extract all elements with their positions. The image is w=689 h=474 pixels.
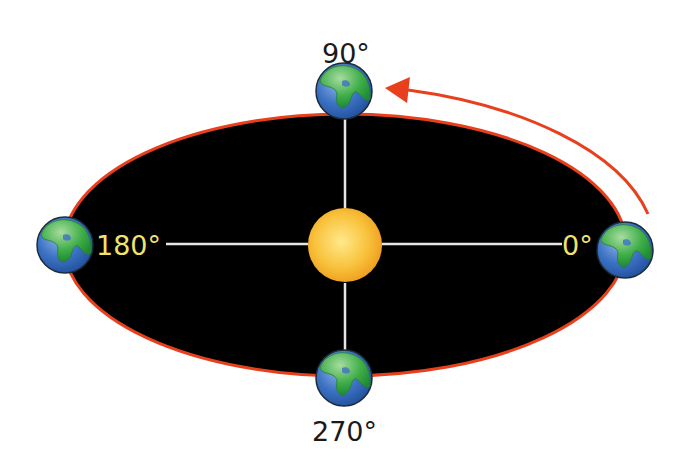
sun-icon (308, 208, 382, 282)
earth-icon-180 (37, 217, 93, 273)
angle-label-180: 180° (96, 232, 161, 259)
angle-label-270: 270° (312, 418, 377, 445)
earth-icon-0 (597, 222, 653, 278)
orbit-diagram: 90° 180° 0° 270° (0, 0, 689, 474)
arrowhead-icon (385, 77, 410, 103)
earth-icon-90 (316, 63, 372, 119)
angle-label-90: 90° (322, 40, 370, 67)
angle-label-0: 0° (562, 232, 593, 259)
earth-icon-270 (316, 350, 372, 406)
